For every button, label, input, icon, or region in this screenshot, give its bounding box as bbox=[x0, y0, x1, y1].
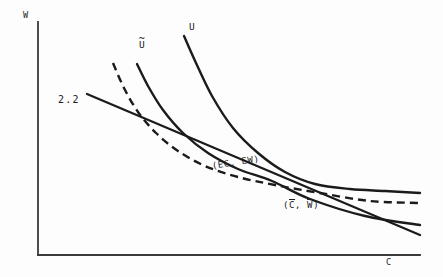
budget-line-label: 2.2 bbox=[58, 95, 80, 105]
x-axis-label: C bbox=[386, 258, 392, 267]
u-tilde-glyph: ~ U bbox=[139, 40, 145, 50]
curve-budget-line-2-2 bbox=[87, 94, 420, 235]
point-label-certain: (C, W) bbox=[283, 201, 319, 210]
indifference-curve-figure: W C 2.2 U ~ U (EC, EW) (C, W) bbox=[0, 0, 443, 277]
tilde-mark: ~ bbox=[139, 34, 146, 44]
y-axis-label: W bbox=[23, 11, 29, 20]
figure-canvas bbox=[0, 0, 443, 277]
curves-group bbox=[87, 36, 420, 235]
axes-group bbox=[38, 22, 420, 255]
curve-u-label: U bbox=[189, 22, 195, 32]
paren-close: ) bbox=[313, 200, 319, 210]
curve-bar-dashed bbox=[113, 63, 420, 203]
comma-sep: , bbox=[295, 200, 307, 210]
curve-u-tilde-label: ~ U bbox=[139, 40, 145, 50]
